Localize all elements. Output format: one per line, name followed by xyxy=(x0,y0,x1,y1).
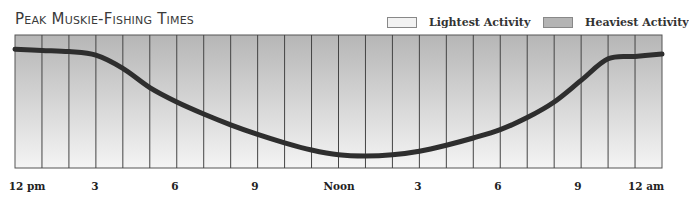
x-label: 9 xyxy=(574,180,581,192)
x-label: 3 xyxy=(91,180,98,192)
x-label: 12 pm xyxy=(9,180,46,192)
x-label: 6 xyxy=(494,180,501,192)
x-label: 3 xyxy=(414,180,421,192)
x-label: 9 xyxy=(251,180,258,192)
x-label: 12 am xyxy=(628,180,664,192)
x-label: Noon xyxy=(323,180,354,192)
x-label: 6 xyxy=(171,180,178,192)
